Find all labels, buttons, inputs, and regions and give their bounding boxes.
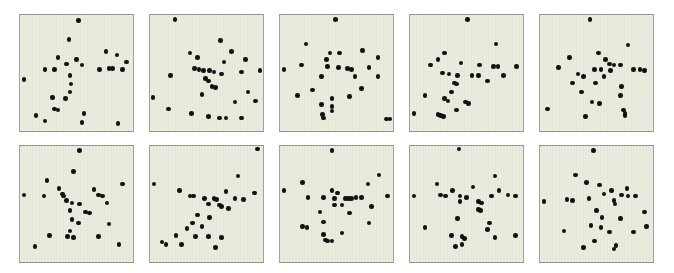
scatter-panel-4 — [409, 14, 524, 132]
scatter-panel-2 — [149, 14, 264, 132]
panel-frame — [539, 14, 654, 132]
panel-frame — [539, 145, 654, 263]
panel-frame — [149, 145, 264, 263]
panel-frame — [279, 14, 394, 132]
scatterplot-panel-grid — [0, 0, 674, 273]
scatter-panel-5 — [539, 14, 654, 132]
panel-frame — [279, 145, 394, 263]
panel-frame — [149, 14, 264, 132]
panel-frame — [19, 145, 134, 263]
scatter-panel-10 — [539, 145, 654, 263]
scatter-panel-8 — [279, 145, 394, 263]
panel-frame — [19, 14, 134, 132]
scatter-panel-9 — [409, 145, 524, 263]
scatter-panel-3 — [279, 14, 394, 132]
scatter-panel-1 — [19, 14, 134, 132]
scatter-panel-6 — [19, 145, 134, 263]
scatter-panel-7 — [149, 145, 264, 263]
panel-frame — [409, 14, 524, 132]
panel-frame — [409, 145, 524, 263]
